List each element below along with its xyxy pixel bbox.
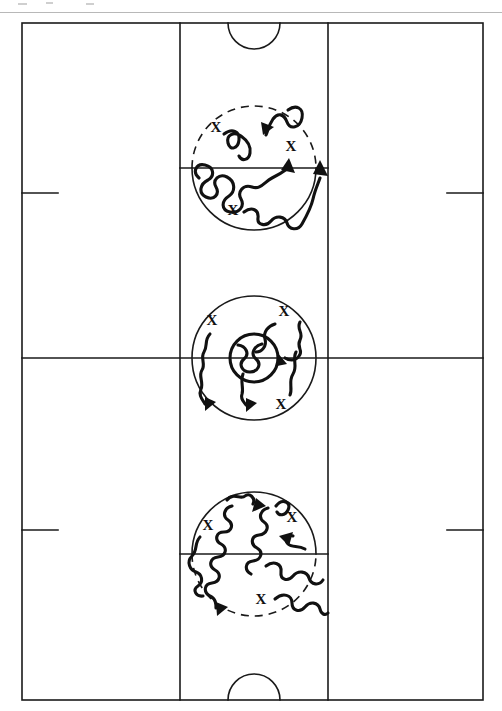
- player-x-mark: X: [256, 591, 267, 607]
- scan-speck: [18, 3, 27, 5]
- dribble-path-bottom-lower-loops: [275, 595, 328, 614]
- player-x-mark: X: [287, 509, 298, 525]
- basketball-court-diagram: X X X X X X: [0, 0, 502, 711]
- dribble-path-center-left-wave: [200, 334, 210, 404]
- basket-arc-bottom: [228, 674, 280, 700]
- free-throw-circle-top-dashed-half: [192, 106, 316, 168]
- dribble-path-bottom-center-column: [246, 508, 268, 574]
- scan-speck: [86, 3, 94, 5]
- player-x-mark: X: [279, 303, 290, 319]
- player-x-mark: X: [276, 396, 287, 412]
- dribble-path-x3-sweep: [244, 178, 320, 229]
- player-x-mark: X: [211, 119, 222, 135]
- dribble-path-bottom-spike: [227, 495, 254, 504]
- arrow-head-center-middle: [246, 398, 257, 412]
- dribble-path-x1-loops: [224, 131, 250, 160]
- dribble-path-top-right-curl: [266, 107, 302, 135]
- basket-arc-top: [228, 23, 280, 49]
- scan-speck: [46, 2, 53, 4]
- dribble-path-center-right-zigzag: [285, 322, 301, 360]
- player-x-mark: X: [228, 202, 239, 218]
- dribble-path-free-throw-loops: [195, 165, 287, 213]
- player-x-mark: X: [207, 312, 218, 328]
- court-boundary: [22, 23, 483, 700]
- court-markings: [22, 23, 483, 700]
- scan-artifacts: [0, 2, 502, 13]
- court-diagram-root: X X X X X X: [0, 0, 502, 711]
- player-x-mark: X: [286, 138, 297, 154]
- dribble-path-center-top-entry: [256, 324, 275, 352]
- player-x-mark: X: [203, 517, 214, 533]
- arrow-head-bottom-left-column: [216, 602, 228, 616]
- arrow-head-center-left: [205, 397, 216, 411]
